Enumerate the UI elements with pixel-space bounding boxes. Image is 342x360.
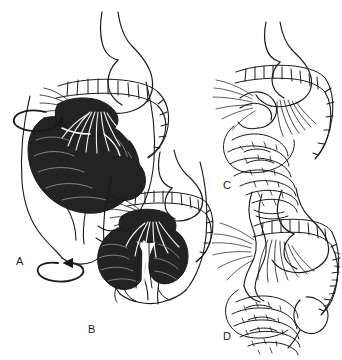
medical-illustration-figure [0,0,342,360]
panel-label-d: D [223,330,231,342]
panel-label-a: A [16,255,24,267]
panel-label-b: B [88,323,96,335]
panel-label-c: C [223,179,231,191]
